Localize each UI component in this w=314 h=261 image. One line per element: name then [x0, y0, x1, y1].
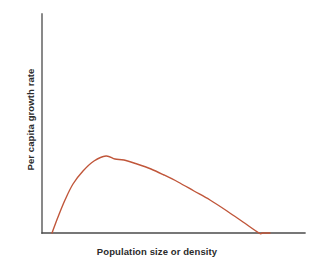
y-axis-label: Per capita growth rate — [25, 40, 36, 200]
x-axis-label: Population size or density — [0, 246, 314, 257]
chart-plot-area — [0, 0, 314, 261]
growth-rate-curve — [52, 156, 270, 234]
chart-figure: Per capita growth rate Population size o… — [0, 0, 314, 261]
